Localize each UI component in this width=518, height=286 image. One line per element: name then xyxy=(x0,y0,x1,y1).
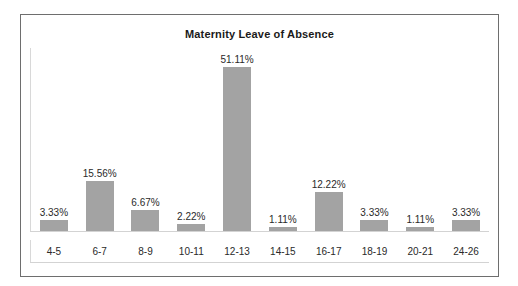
bar-slot: 3.33% xyxy=(31,48,77,231)
bar-slot: 15.56% xyxy=(77,48,123,231)
chart-title: Maternity Leave of Absence xyxy=(21,28,498,40)
bar-value-label: 3.33% xyxy=(360,207,388,218)
x-axis-label: 12-13 xyxy=(214,246,260,257)
bar-slot: 3.33% xyxy=(443,48,489,231)
bar[interactable] xyxy=(223,67,251,231)
bar[interactable] xyxy=(131,210,159,231)
x-axis-label: 16-17 xyxy=(306,246,352,257)
x-axis-line xyxy=(30,231,489,232)
bar-slot: 3.33% xyxy=(352,48,398,231)
x-axis-label: 20-21 xyxy=(397,246,443,257)
bar-slot: 51.11% xyxy=(214,48,260,231)
bar-series: 3.33%15.56%6.67%2.22%51.11%1.11%12.22%3.… xyxy=(31,48,489,231)
x-axis-label: 6-7 xyxy=(77,246,123,257)
bar-slot: 1.11% xyxy=(260,48,306,231)
x-axis-label: 14-15 xyxy=(260,246,306,257)
x-axis-label: 24-26 xyxy=(443,246,489,257)
bar-value-label: 15.56% xyxy=(83,168,117,179)
bar-value-label: 2.22% xyxy=(177,211,205,222)
bar[interactable] xyxy=(40,220,68,231)
bar-slot: 6.67% xyxy=(123,48,169,231)
bar[interactable] xyxy=(177,224,205,231)
bar-value-label: 6.67% xyxy=(131,197,159,208)
x-axis-label: 8-9 xyxy=(123,246,169,257)
x-axis-label: 4-5 xyxy=(31,246,77,257)
bar[interactable] xyxy=(86,181,114,231)
bar-value-label: 1.11% xyxy=(269,214,297,225)
bar-value-label: 51.11% xyxy=(220,54,253,65)
bar[interactable] xyxy=(452,220,480,231)
bar[interactable] xyxy=(315,192,343,231)
bar-slot: 1.11% xyxy=(397,48,443,231)
chart-container: Maternity Leave of Absence 3.33%15.56%6.… xyxy=(20,14,499,277)
bar-slot: 2.22% xyxy=(168,48,214,231)
x-axis-label: 18-19 xyxy=(352,246,398,257)
bar[interactable] xyxy=(360,220,388,231)
bar-value-label: 12.22% xyxy=(312,179,346,190)
x-axis-baseline xyxy=(30,262,489,263)
bar-value-label: 3.33% xyxy=(40,207,68,218)
bar-slot: 12.22% xyxy=(306,48,352,231)
x-axis-label: 10-11 xyxy=(168,246,214,257)
bar-value-label: 3.33% xyxy=(452,207,480,218)
x-axis-tick-labels: 4-56-78-910-1112-1314-1516-1718-1920-212… xyxy=(30,240,489,262)
bar-value-label: 1.11% xyxy=(406,214,434,225)
plot-area: 3.33%15.56%6.67%2.22%51.11%1.11%12.22%3.… xyxy=(30,48,489,231)
